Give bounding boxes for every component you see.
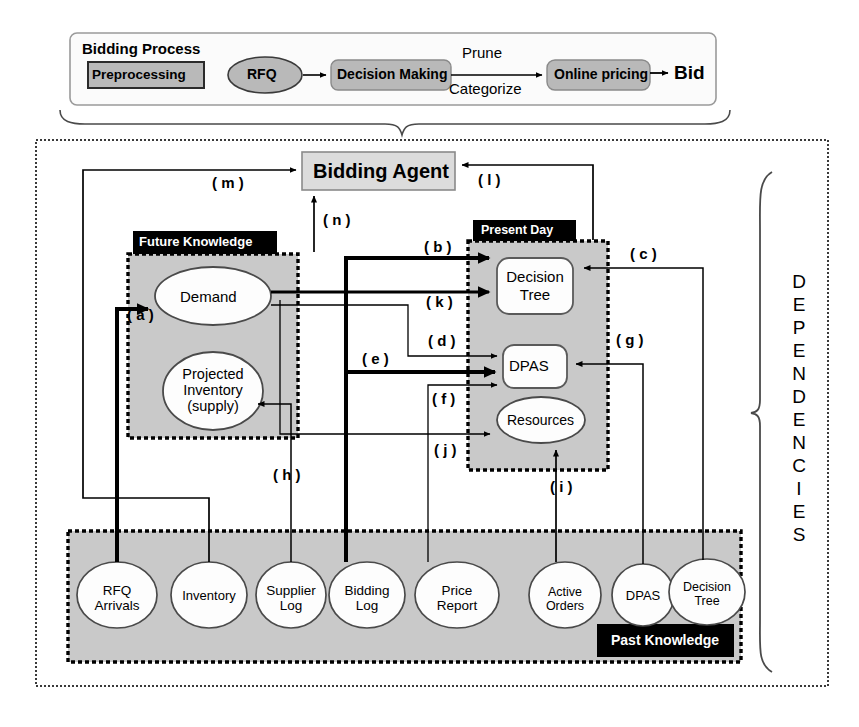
dependencies-side-label: D E P E N D E N C I E S [782, 270, 816, 546]
dtp-line1: Decision [497, 268, 573, 286]
node-decision-making-label[interactable]: Decision Making [337, 66, 447, 82]
pk3-l1: Bidding [329, 583, 405, 598]
pk2-l1: Supplier [253, 583, 329, 598]
pk0-l2: Arrivals [77, 598, 157, 613]
edge-label-b: ( b ) [424, 238, 452, 255]
dep-letter-0: D [782, 270, 816, 293]
edge-label-j: ( j ) [434, 441, 457, 458]
pk3-l2: Log [329, 598, 405, 613]
projected-inventory-label[interactable]: Projected Inventory (supply) [163, 366, 263, 414]
edge-label-l: ( l ) [478, 171, 501, 188]
inventory-label[interactable]: Inventory [169, 588, 249, 603]
brace-connector [60, 110, 730, 135]
dpas-past-label[interactable]: DPAS [613, 588, 673, 603]
decision-tree-present-label[interactable]: Decision Tree [497, 268, 573, 304]
bidding-process-title: Bidding Process [82, 40, 200, 57]
dep-letter-2: P [782, 316, 816, 339]
pk5-l2: Orders [527, 599, 603, 613]
pk4-l1: Price [417, 583, 497, 598]
pk7-l1: Decision [669, 580, 745, 594]
node-rfq-label[interactable]: RFQ [247, 66, 277, 82]
pk0-l1: RFQ [77, 583, 157, 598]
pi-line1: Projected [163, 366, 263, 382]
dep-letter-7: N [782, 431, 816, 454]
edge-label-d: ( d ) [428, 332, 456, 349]
dep-letter-8: C [782, 454, 816, 477]
edge-label-g: ( g ) [616, 331, 644, 348]
past-knowledge-header: Past Knowledge [611, 632, 719, 648]
pk6-l1: DPAS [613, 588, 673, 603]
dtp-line2: Tree [497, 286, 573, 304]
diagram-svg [0, 0, 859, 727]
edge-label-i: ( i ) [550, 478, 573, 495]
dep-letter-3: E [782, 339, 816, 362]
bidding-log-label[interactable]: Bidding Log [329, 583, 405, 613]
price-report-label[interactable]: Price Report [417, 583, 497, 613]
pi-line2: Inventory [163, 382, 263, 398]
pk4-l2: Report [417, 598, 497, 613]
edge-label-k: ( k ) [426, 293, 453, 310]
edge-label-a: ( a ) [127, 306, 154, 323]
dependencies-brace [751, 172, 772, 672]
decision-tree-past-label[interactable]: Decision Tree [669, 580, 745, 608]
pi-line3: (supply) [163, 398, 263, 414]
edge-label-c: ( c ) [630, 245, 657, 262]
edge-d [271, 305, 497, 356]
resources-label[interactable]: Resources [507, 412, 574, 428]
edge-label-e: ( e ) [362, 350, 389, 367]
dep-letter-4: N [782, 362, 816, 385]
edge-label-categorize: Categorize [449, 80, 522, 97]
dep-letter-6: E [782, 408, 816, 431]
pk1-l1: Inventory [169, 588, 249, 603]
dep-letter-1: E [782, 293, 816, 316]
edge-label-n: ( n ) [323, 211, 351, 228]
pk5-l1: Active [527, 585, 603, 599]
node-online-pricing-label[interactable]: Online pricing [554, 66, 648, 82]
rfq-arrivals-label[interactable]: RFQ Arrivals [77, 583, 157, 613]
node-preprocessing-label[interactable]: Preprocessing [92, 67, 186, 82]
dep-letter-5: D [782, 385, 816, 408]
edge-label-prune: Prune [462, 44, 502, 61]
present-day-header: Present Day [481, 223, 553, 237]
pk7-l2: Tree [669, 594, 745, 608]
node-bid-label: Bid [674, 62, 705, 84]
edge-label-h: ( h ) [273, 466, 301, 483]
pk2-l2: Log [253, 598, 329, 613]
edge-label-m: ( m ) [212, 174, 244, 191]
edge-label-f: ( f ) [432, 390, 455, 407]
demand-label[interactable]: Demand [180, 288, 237, 305]
dep-letter-11: S [782, 523, 816, 546]
dpas-present-label[interactable]: DPAS [509, 357, 549, 374]
diagram-canvas: Bidding Process Preprocessing RFQ Decisi… [0, 0, 859, 727]
bidding-agent-label[interactable]: Bidding Agent [313, 160, 449, 183]
dep-letter-10: E [782, 500, 816, 523]
active-orders-label[interactable]: Active Orders [527, 585, 603, 613]
dep-letter-9: I [782, 477, 816, 500]
future-knowledge-header: Future Knowledge [139, 234, 252, 249]
edge-j [280, 300, 490, 434]
supplier-log-label[interactable]: Supplier Log [253, 583, 329, 613]
